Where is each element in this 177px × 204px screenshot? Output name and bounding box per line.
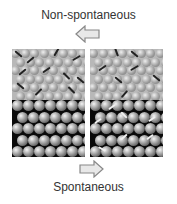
- sphere: [108, 66, 117, 75]
- sphere: [128, 135, 139, 146]
- sphere: [39, 112, 50, 123]
- sphere: [134, 100, 145, 111]
- sphere: [72, 112, 83, 123]
- sphere: [151, 92, 160, 101]
- sphere: [50, 135, 61, 146]
- sphere: [49, 83, 58, 92]
- right-panel: [90, 49, 163, 157]
- sphere: [134, 123, 145, 134]
- sphere: [67, 146, 78, 157]
- sphere: [23, 100, 34, 111]
- sphere: [90, 83, 98, 92]
- sphere: [161, 92, 164, 101]
- sphere: [90, 49, 98, 58]
- sphere: [12, 146, 23, 157]
- sphere: [137, 66, 146, 75]
- sphere: [28, 135, 39, 146]
- left-arrow-icon: [75, 25, 101, 43]
- right-panel-black-region: [90, 100, 163, 157]
- sphere: [161, 135, 163, 146]
- sphere: [26, 92, 35, 101]
- left-panel-gray-region: [12, 49, 85, 100]
- sphere: [78, 66, 86, 75]
- sphere: [67, 100, 78, 111]
- sphere: [83, 112, 85, 123]
- right-arrow-icon: [78, 160, 104, 178]
- sphere: [12, 100, 23, 111]
- sphere: [112, 123, 123, 134]
- sphere: [78, 83, 86, 92]
- sphere: [23, 146, 34, 157]
- sphere: [146, 49, 155, 58]
- sphere: [134, 146, 145, 157]
- sphere: [78, 123, 85, 134]
- sphere: [118, 66, 127, 75]
- sphere: [34, 100, 45, 111]
- spontaneous-label: Spontaneous: [0, 180, 177, 194]
- sphere: [12, 123, 23, 134]
- sphere: [94, 92, 103, 101]
- sphere: [108, 83, 117, 92]
- sphere: [16, 92, 25, 101]
- sphere: [30, 66, 39, 75]
- sphere: [137, 83, 146, 92]
- sphere: [54, 92, 63, 101]
- sphere: [145, 123, 156, 134]
- sphere: [17, 112, 28, 123]
- sphere: [146, 83, 155, 92]
- sphere: [45, 92, 54, 101]
- sphere: [83, 92, 86, 101]
- sphere: [95, 135, 106, 146]
- sphere: [56, 123, 67, 134]
- sphere: [123, 100, 134, 111]
- sphere: [156, 123, 163, 134]
- sphere: [90, 100, 101, 111]
- non-spontaneous-label: Non-spontaneous: [0, 8, 177, 22]
- sphere: [61, 112, 72, 123]
- sphere: [127, 83, 136, 92]
- left-panel: [12, 49, 85, 157]
- sphere: [45, 146, 56, 157]
- sphere: [40, 49, 49, 58]
- sphere: [56, 146, 67, 157]
- sphere: [145, 100, 156, 111]
- sphere: [59, 83, 68, 92]
- sphere: [17, 135, 28, 146]
- sphere: [72, 135, 83, 146]
- sphere: [34, 123, 45, 134]
- sphere: [99, 83, 108, 92]
- sphere: [56, 100, 67, 111]
- sphere: [99, 49, 108, 58]
- sphere: [61, 135, 72, 146]
- sphere: [34, 146, 45, 157]
- sphere: [50, 112, 61, 123]
- sphere: [59, 49, 68, 58]
- sphere: [156, 100, 163, 111]
- sphere: [156, 146, 163, 157]
- sphere: [142, 92, 151, 101]
- sphere: [106, 135, 117, 146]
- sphere: [156, 83, 164, 92]
- sphere: [83, 135, 85, 146]
- sphere: [23, 123, 34, 134]
- sphere: [45, 123, 56, 134]
- sphere: [78, 100, 85, 111]
- sphere: [90, 123, 101, 134]
- sphere: [123, 123, 134, 134]
- sphere: [64, 92, 73, 101]
- sphere: [132, 92, 141, 101]
- sphere: [68, 66, 77, 75]
- sphere: [112, 146, 123, 157]
- sphere: [156, 49, 164, 58]
- sphere: [123, 146, 134, 157]
- sphere: [90, 66, 98, 75]
- sphere: [104, 92, 113, 101]
- sphere: [156, 66, 164, 75]
- sphere: [67, 123, 78, 134]
- sphere: [161, 112, 163, 123]
- sphere: [78, 146, 85, 157]
- left-panel-black-region: [12, 100, 85, 157]
- sphere: [128, 112, 139, 123]
- sphere: [45, 100, 56, 111]
- sphere: [39, 135, 50, 146]
